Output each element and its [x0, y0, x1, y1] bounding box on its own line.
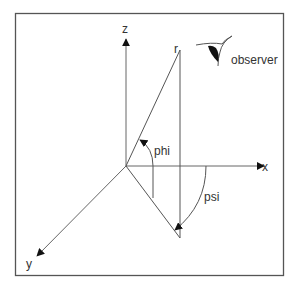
point-r-label: r [174, 42, 178, 56]
phi-arc [140, 140, 153, 166]
z-axis-label: z [122, 22, 128, 36]
y-axis [37, 166, 126, 256]
x-axis-label: x [262, 160, 268, 174]
phi-angle [140, 140, 153, 198]
vector-r [126, 50, 180, 238]
psi-label: psi [204, 190, 219, 204]
axes [37, 39, 264, 256]
eye-icon [196, 36, 232, 66]
radius-line [126, 50, 180, 166]
observer-label: observer [231, 53, 278, 67]
phi-label: phi [154, 144, 170, 158]
spherical-coordinates-diagram: z x y r phi psi observer [0, 0, 299, 288]
y-axis-label: y [26, 257, 32, 271]
